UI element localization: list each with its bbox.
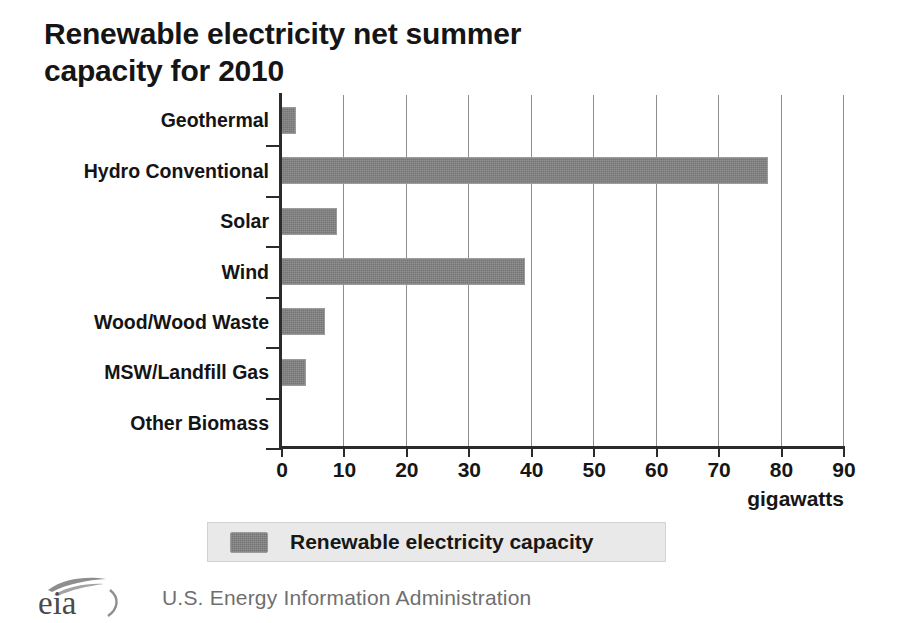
x-axis-title: gigawatts [747,487,844,511]
gridline [593,95,594,448]
x-axis-tick [343,448,345,457]
x-axis-tick [531,448,533,457]
category-label-msw-landfill-gas: MSW/Landfill Gas [0,361,269,384]
x-axis-tick [656,448,658,457]
footer-agency-name: U.S. Energy Information Administration [162,586,531,610]
x-axis-tick-label: 80 [770,458,793,482]
legend-label-renewable-electricity-capacity: Renewable electricity capacity [290,530,594,554]
y-axis-tick [266,398,281,400]
x-axis-tick [593,448,595,457]
x-axis-tick-label: 30 [458,458,481,482]
y-axis-tick [266,196,281,198]
x-axis-tick [781,448,783,457]
x-axis-tick [718,448,720,457]
x-axis-tick-label: 60 [645,458,668,482]
svg-text:eia: eia [38,585,77,620]
footer: eia U.S. Energy Information Administrati… [34,576,531,620]
x-axis-tick [281,448,283,457]
chart-legend: Renewable electricity capacity [207,522,666,562]
category-label-wind: Wind [0,260,269,283]
x-axis-tick-label: 40 [520,458,543,482]
gridline [718,95,719,448]
chart-figure: Renewable electricity net summer capacit… [0,0,902,623]
gridline [531,95,532,448]
x-axis-tick [843,448,845,457]
x-axis-line [279,446,845,449]
x-axis-tick-label: 20 [395,458,418,482]
plot-area [281,95,843,448]
x-axis-tick [406,448,408,457]
gridline [843,95,844,448]
x-axis-tick-label: 90 [832,458,855,482]
bar-geothermal [281,107,296,134]
chart-title: Renewable electricity net summer capacit… [44,16,604,89]
x-axis-tick-label: 0 [276,458,288,482]
x-axis-tick-label: 70 [707,458,730,482]
category-label-other-biomass: Other Biomass [0,411,269,434]
y-axis-tick [266,145,281,147]
bar-wood-wood-waste [281,308,325,335]
x-axis-tick-label: 10 [333,458,356,482]
x-axis-tick [468,448,470,457]
bar-msw-landfill-gas [281,359,306,386]
x-axis-tick-label: 50 [583,458,606,482]
y-axis-tick [266,448,281,450]
category-label-hydro-conventional: Hydro Conventional [0,159,269,182]
bar-solar [281,208,337,235]
category-label-geothermal: Geothermal [0,109,269,132]
category-axis-labels: GeothermalHydro ConventionalSolarWindWoo… [0,95,269,448]
eia-logo-icon: eia [34,576,146,620]
gridline [656,95,657,448]
gridline [781,95,782,448]
category-label-solar: Solar [0,210,269,233]
y-axis-tick [266,297,281,299]
bar-wind [281,258,525,285]
category-label-wood-wood-waste: Wood/Wood Waste [0,310,269,333]
y-axis-tick [266,347,281,349]
bar-hydro-conventional [281,157,768,184]
y-axis-tick [266,246,281,248]
legend-swatch-renewable-electricity-capacity [230,532,268,553]
